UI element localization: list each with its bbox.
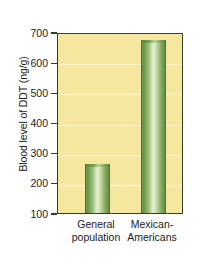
x-axis-category-label-line: Americans (115, 231, 189, 244)
x-axis-category-label: Mexican-Americans (115, 218, 189, 243)
y-axis-tick (51, 63, 57, 64)
y-axis-tick (51, 213, 57, 214)
bar-top-cap (86, 164, 109, 167)
y-axis-tick (51, 93, 57, 94)
y-axis-tick-label: 500 (0, 88, 48, 99)
y-axis-tick-label: 400 (0, 118, 48, 129)
bar (85, 164, 110, 213)
y-axis-tick-label: 700 (0, 28, 48, 39)
y-axis-tick (51, 153, 57, 154)
y-axis-tick-label: 300 (0, 148, 48, 159)
bar (141, 40, 166, 214)
plot-area (57, 33, 183, 214)
y-axis-tick (51, 183, 57, 184)
y-axis-tick (51, 32, 57, 33)
y-axis-tick-label: 100 (0, 209, 48, 220)
chart-figure: Blood level of DDT (ng/g) 10020030040050… (0, 0, 201, 266)
x-axis-category-label-line: Mexican- (115, 218, 189, 231)
bar-top-cap (142, 40, 165, 43)
y-axis-tick (51, 123, 57, 124)
y-axis-tick-label: 600 (0, 58, 48, 69)
y-axis-tick-label: 200 (0, 178, 48, 189)
